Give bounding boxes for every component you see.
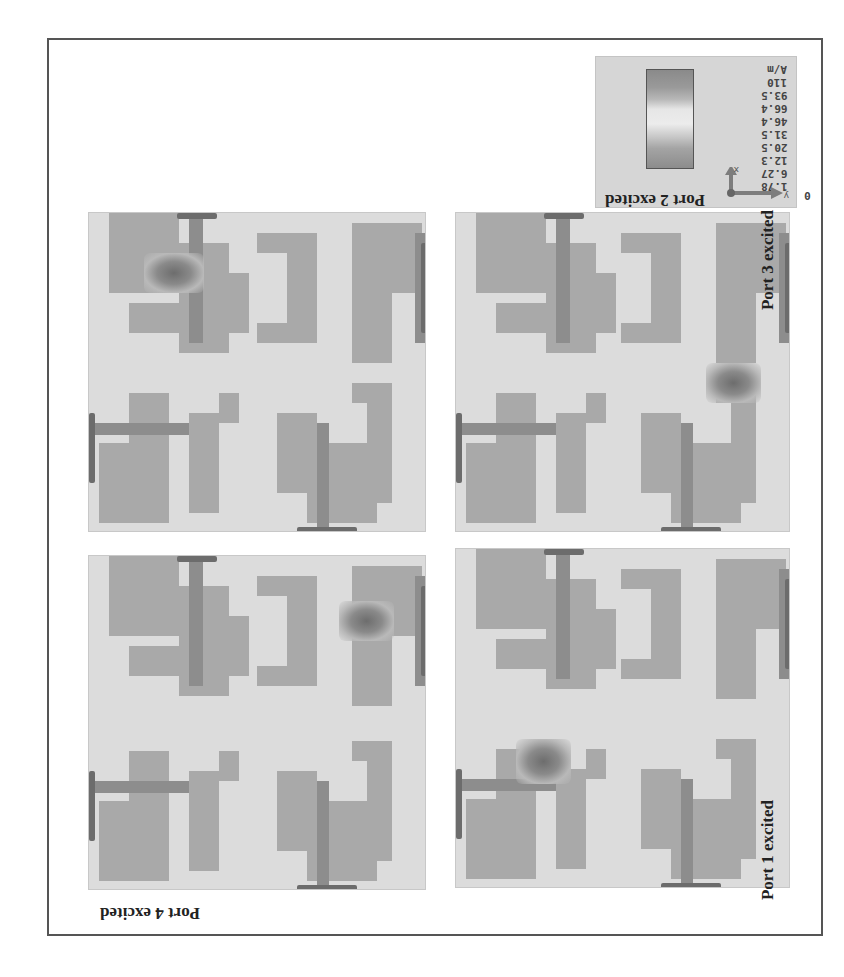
port-connector (456, 769, 462, 839)
legend-value: 20.5 (761, 141, 788, 154)
patch-element (641, 413, 681, 493)
port-connector (297, 527, 357, 532)
feed-line (317, 781, 329, 890)
port-connector (785, 243, 790, 333)
current-hotspot (144, 253, 204, 293)
feed-line (556, 213, 570, 343)
patch-element (189, 771, 219, 871)
patch-element (109, 556, 179, 636)
patch-element (621, 659, 651, 679)
patch-element (546, 579, 596, 689)
patch-element (229, 616, 249, 676)
patch-element (257, 323, 287, 343)
legend-value: 110 (767, 76, 787, 89)
feed-line (189, 556, 203, 686)
port-connector (661, 527, 721, 532)
patch-element (556, 413, 586, 513)
patch-element (277, 771, 317, 851)
patch-element (621, 569, 651, 589)
patch-element (99, 443, 169, 523)
legend-unit: A/m (767, 63, 787, 76)
legend-value: 31.5 (761, 128, 788, 141)
field-panel-port3 (455, 212, 790, 532)
colorbar-gradient (646, 69, 694, 169)
legend-value: 66.4 (761, 102, 788, 115)
port-connector (785, 579, 790, 669)
port-connector (544, 549, 584, 555)
legend-value: 12.3 (761, 154, 788, 167)
field-panel-port4 (88, 212, 426, 532)
patch-element (476, 213, 546, 293)
patch-element (466, 443, 536, 523)
caption-port2: Port 2 excited (605, 190, 705, 210)
axis-triad-icon: y x (721, 167, 791, 203)
patch-element (287, 233, 317, 343)
patch-element (621, 323, 651, 343)
patch-element (257, 576, 287, 596)
patch-element (466, 799, 536, 879)
patch-element (287, 576, 317, 686)
patch-element (556, 769, 586, 869)
caption-port4: Port 4 excited (100, 903, 200, 923)
legend-value: 93.5 (761, 89, 788, 102)
svg-text:x: x (733, 167, 739, 175)
patch-element (716, 739, 756, 759)
port-connector (421, 243, 426, 333)
patch-element (219, 751, 239, 781)
port-connector (89, 771, 95, 841)
port-connector (177, 213, 217, 219)
patch-element (716, 559, 786, 629)
port-connector (89, 413, 95, 483)
patch-element (352, 223, 422, 293)
current-hotspot (706, 363, 761, 403)
patch-element (596, 273, 616, 333)
current-hotspot (516, 739, 571, 784)
feed-line (681, 779, 693, 888)
patch-element (546, 243, 596, 353)
patch-element (257, 233, 287, 253)
port-connector (544, 213, 584, 219)
patch-element (189, 413, 219, 513)
patch-element (596, 609, 616, 669)
port-connector (297, 885, 357, 890)
current-hotspot (339, 601, 394, 641)
patch-element (352, 636, 392, 706)
port-connector (456, 413, 462, 483)
patch-element (641, 769, 681, 849)
caption-port1: Port 1 excited (758, 800, 778, 900)
port-connector (177, 556, 217, 562)
patch-element (277, 413, 317, 493)
patch-element (586, 749, 606, 779)
colorbar-legend: A/m 110 93.5 66.4 46.4 31.5 20.5 12.3 6.… (595, 56, 797, 208)
port-connector (421, 586, 426, 676)
field-panel-port2 (455, 548, 790, 888)
field-panel-port1 (88, 555, 426, 890)
legend-value: 0 (804, 189, 811, 202)
patch-element (496, 639, 556, 669)
patch-element (129, 303, 189, 333)
feed-line (556, 549, 570, 679)
patch-element (716, 293, 756, 363)
feed-line (317, 423, 329, 532)
patch-element (257, 666, 287, 686)
patch-element (651, 233, 681, 343)
legend-value: 46.4 (761, 115, 788, 128)
patch-element (586, 393, 606, 423)
patch-element (716, 629, 756, 699)
patch-element (476, 549, 546, 629)
patch-element (99, 801, 169, 881)
patch-element (496, 303, 556, 333)
patch-element (352, 293, 392, 363)
patch-element (129, 646, 189, 676)
svg-text:y: y (783, 191, 789, 201)
port-connector (661, 883, 721, 888)
caption-port3: Port 3 excited (758, 210, 778, 310)
patch-element (352, 741, 392, 761)
patch-element (229, 273, 249, 333)
patch-element (651, 569, 681, 679)
patch-element (352, 383, 392, 403)
patch-element (219, 393, 239, 423)
feed-line (681, 423, 693, 532)
patch-element (621, 233, 651, 253)
patch-element (179, 586, 229, 696)
